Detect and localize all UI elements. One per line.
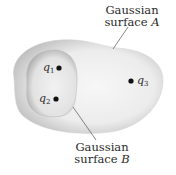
- surface-letter: B: [121, 152, 129, 166]
- charge-subscript: 2: [46, 98, 50, 106]
- surface-a-label: Gaussian surface A: [104, 4, 160, 28]
- charge-q1-label: q1: [43, 62, 55, 77]
- charge-q3-dot: [128, 78, 133, 83]
- surface-word: surface: [74, 152, 121, 166]
- charge-subscript: 1: [50, 67, 54, 75]
- charge-symbol: q: [39, 92, 46, 105]
- charge-symbol: q: [137, 74, 144, 87]
- surface-b-label: Gaussian surface B: [74, 141, 130, 165]
- gaussian-surface-b: [27, 50, 77, 117]
- charge-subscript: 3: [144, 80, 148, 88]
- surface-word: surface: [104, 15, 151, 29]
- charge-q1-dot: [56, 65, 61, 70]
- charge-q3-label: q3: [137, 75, 149, 90]
- leader-line-a: [113, 27, 128, 49]
- charge-q2-label: q2: [39, 93, 51, 108]
- charge-symbol: q: [43, 61, 50, 74]
- charge-q2-dot: [53, 96, 58, 101]
- surface-a-label-line2: surface A: [104, 16, 160, 28]
- surface-letter: A: [151, 15, 159, 29]
- surface-b-label-line2: surface B: [74, 153, 130, 165]
